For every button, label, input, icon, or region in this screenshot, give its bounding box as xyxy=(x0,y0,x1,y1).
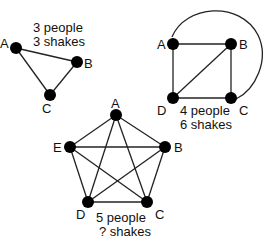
caption-5-line2: ? shakes xyxy=(99,224,152,239)
node-3-c xyxy=(44,89,56,101)
edge-b-d xyxy=(88,147,165,202)
node-5-c xyxy=(141,196,153,208)
node-5-e xyxy=(64,141,76,153)
edge-a-b xyxy=(116,115,165,147)
label-5-d: D xyxy=(76,207,85,222)
handshake-diagram: A B C 3 people 3 shakes A B C D 4 people… xyxy=(0,0,270,241)
label-5-c: C xyxy=(155,207,164,222)
edge-b-c xyxy=(50,62,77,95)
label-3-a: A xyxy=(0,36,9,51)
edge-a-d xyxy=(88,115,116,202)
label-5-b: B xyxy=(174,140,183,155)
edge-d-e xyxy=(70,147,88,202)
node-3-b xyxy=(71,56,83,68)
label-3-c: C xyxy=(42,101,51,116)
label-5-e: E xyxy=(53,140,62,155)
label-3-b: B xyxy=(84,56,93,71)
node-4-b xyxy=(225,38,237,50)
caption-3-line2: 3 shakes xyxy=(33,34,86,49)
graph-4-people xyxy=(172,11,262,99)
graph-3-people xyxy=(16,48,77,95)
node-3-a xyxy=(10,42,22,54)
label-5-a: A xyxy=(111,96,120,111)
edge-d-b xyxy=(173,44,231,98)
label-4-b: B xyxy=(239,37,248,52)
node-4-a xyxy=(167,38,179,50)
label-4-c: C xyxy=(239,103,248,118)
node-5-b xyxy=(159,141,171,153)
caption-4-line2: 6 shakes xyxy=(180,117,233,132)
edge-b-c xyxy=(147,147,165,202)
edge-a-c xyxy=(116,115,147,202)
graph-5-people xyxy=(70,115,165,202)
label-4-a: A xyxy=(157,37,166,52)
caption-3-line1: 3 people xyxy=(33,20,83,35)
label-4-d: D xyxy=(157,103,166,118)
caption-5-line1: 5 people xyxy=(96,210,146,225)
caption-4-line1: 4 people xyxy=(180,103,230,118)
edge-c-e xyxy=(70,147,147,202)
edge-a-e xyxy=(70,115,116,147)
node-4-d xyxy=(167,92,179,104)
